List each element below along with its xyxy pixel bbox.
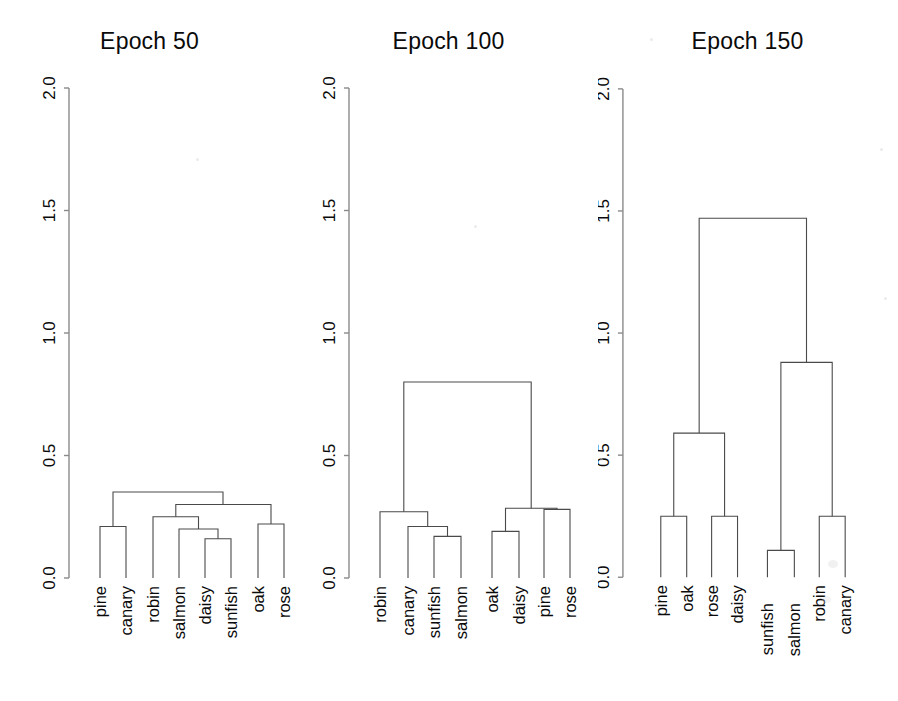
link-pine-oak xyxy=(661,516,687,577)
link-pine-rose xyxy=(544,509,570,578)
dendrogram-links-epoch-100 xyxy=(380,382,570,578)
leaf-label: pine xyxy=(91,586,109,617)
y-axis-epoch-150: 0.0 0.5 1.0 1.5 2.0 xyxy=(598,77,623,589)
leaf-labels-epoch-150: pine oak rose daisy sunfish salmon robin… xyxy=(652,584,854,656)
leaf-label: canary xyxy=(836,584,854,634)
axis-tick-label: 2.0 xyxy=(40,76,59,100)
y-axis-epoch-50: 0.0 0.5 1.0 1.5 2.0 xyxy=(40,76,69,590)
dendrogram-links-epoch-150 xyxy=(661,218,845,577)
axis-tick-label: 1.5 xyxy=(320,199,339,223)
leaf-label: robin xyxy=(144,586,162,623)
link-canary-fish xyxy=(408,527,448,579)
leaf-label: oak xyxy=(678,584,696,611)
axis-tick-label: 2.0 xyxy=(598,77,613,101)
dendrogram-figure: Epoch 50 0.0 0.5 1.0 1.5 2.0 xyxy=(0,0,898,701)
link-robin-canary xyxy=(819,516,845,577)
dendrogram-links-epoch-50 xyxy=(100,492,284,578)
panel-epoch-50: Epoch 50 0.0 0.5 1.0 1.5 2.0 xyxy=(0,0,299,701)
leaf-label: rose xyxy=(275,586,293,618)
plot-epoch-100: 0.0 0.5 1.0 1.5 2.0 xyxy=(299,0,598,701)
axis-tick-label: 0.0 xyxy=(40,566,59,590)
leaf-label: pine xyxy=(535,586,553,617)
link-animals xyxy=(781,362,832,550)
link-sunfish-salmon xyxy=(767,550,794,577)
link-sunfish-salmon xyxy=(434,536,461,578)
scan-artifact xyxy=(884,297,887,300)
plot-epoch-50: 0.0 0.5 1.0 1.5 2.0 xyxy=(0,0,299,701)
scan-artifact xyxy=(880,148,883,151)
scan-artifact xyxy=(650,38,653,41)
link-oak-rose xyxy=(258,524,284,578)
leaf-label: robin xyxy=(371,586,389,623)
link-rose-daisy xyxy=(712,516,738,577)
link-robin-cluster xyxy=(153,517,199,578)
leaf-label: daisy xyxy=(196,585,214,624)
axis-tick-label: 0.5 xyxy=(598,443,613,467)
leaf-label: oak xyxy=(249,585,267,612)
axis-tick-label: 1.0 xyxy=(598,321,613,345)
leaf-label: pine xyxy=(652,585,670,616)
leaf-label: daisy xyxy=(729,584,747,623)
axis-tick-label: 1.5 xyxy=(40,199,59,223)
link-plants xyxy=(674,433,725,516)
axis-tick-label: 1.0 xyxy=(320,321,339,345)
leaf-label: sunfish xyxy=(425,586,443,638)
scan-artifact xyxy=(828,560,838,568)
leaf-label: salmon xyxy=(452,586,470,639)
axis-tick-label: 2.0 xyxy=(320,76,339,100)
leaf-label: salmon xyxy=(170,586,188,639)
leaf-label: rose xyxy=(703,585,721,617)
link-animals-plants xyxy=(176,505,271,525)
leaf-label: robin xyxy=(810,585,828,622)
scan-artifact xyxy=(600,458,603,461)
axis-tick-label: 0.5 xyxy=(320,444,339,468)
scan-artifact xyxy=(196,158,199,161)
panel-epoch-150: Epoch 150 0.0 0.5 1.0 1.5 2.0 xyxy=(598,0,897,701)
axis-tick-label: 1.0 xyxy=(40,321,59,345)
link-root xyxy=(404,382,531,512)
axis-tick-label: 1.5 xyxy=(598,199,613,223)
link-plants xyxy=(506,508,558,531)
leaf-label: oak xyxy=(483,585,501,612)
leaf-label: sunfish xyxy=(222,586,240,638)
scan-artifact xyxy=(822,596,831,603)
link-root xyxy=(699,218,806,433)
link-daisy-sunfish xyxy=(205,539,231,578)
leaf-label: rose xyxy=(561,586,579,618)
leaf-labels-epoch-50: pine canary robin salmon daisy sunfish o… xyxy=(91,585,293,639)
leaf-label: salmon xyxy=(785,603,803,656)
axis-tick-label: 0.0 xyxy=(320,566,339,590)
link-oak-daisy xyxy=(492,531,519,578)
leaf-label: daisy xyxy=(510,585,528,624)
y-axis-epoch-100: 0.0 0.5 1.0 1.5 2.0 xyxy=(320,76,349,590)
axis-tick-label: 0.5 xyxy=(40,444,59,468)
leaf-labels-epoch-100: robin canary sunfish salmon oak daisy pi… xyxy=(371,585,579,639)
axis-tick-label: 0.0 xyxy=(598,565,613,589)
panel-epoch-100: Epoch 100 0.0 0.5 1.0 1.5 2.0 xyxy=(299,0,598,701)
leaf-label: sunfish xyxy=(758,603,776,655)
link-root xyxy=(113,492,223,527)
link-pine-canary xyxy=(100,527,126,579)
link-salmon-cluster xyxy=(179,529,218,578)
plot-epoch-150: 0.0 0.5 1.0 1.5 2.0 xyxy=(598,0,897,701)
leaf-label: canary xyxy=(117,585,135,635)
link-robin-cluster xyxy=(380,512,428,578)
scan-artifact xyxy=(474,225,477,228)
leaf-label: canary xyxy=(399,585,417,635)
